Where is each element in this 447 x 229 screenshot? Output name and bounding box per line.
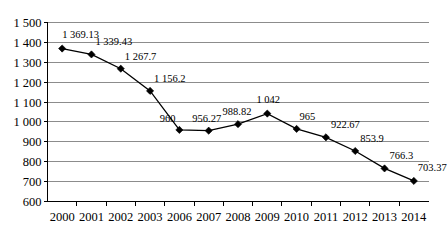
data-point-marker: [264, 110, 271, 117]
data-point-label: 703.37: [418, 162, 447, 173]
x-axis-tick-label: 2008: [226, 210, 251, 224]
data-point-label: 1 156.2: [154, 73, 186, 84]
y-axis-tick-label: 1 500: [13, 16, 41, 30]
data-point-marker: [59, 45, 66, 52]
y-axis-tick-label: 1 400: [13, 36, 41, 50]
data-point-label: 1 339.43: [95, 36, 132, 47]
x-axis-tick-label: 2001: [79, 210, 104, 224]
data-point-label: 853.9: [360, 133, 384, 144]
data-point-marker: [205, 127, 212, 134]
data-point-marker: [410, 177, 417, 184]
data-point-marker: [293, 125, 300, 132]
x-axis-tick-label: 2000: [50, 210, 75, 224]
x-axis-tick-label: 2002: [108, 210, 133, 224]
y-axis-labels-group: 6007008009001 0001 1001 2001 3001 4001 5…: [13, 16, 41, 209]
x-axis-tick-label: 2007: [196, 210, 221, 224]
data-point-label: 1 369.13: [62, 29, 99, 40]
x-axis-tick-label: 2003: [138, 210, 163, 224]
y-axis-tick-label: 1 200: [13, 76, 41, 90]
x-axis-tick-label: 2012: [343, 210, 368, 224]
data-point-label: 1 267.7: [125, 51, 156, 62]
x-axis-tick-label: 2010: [284, 210, 309, 224]
y-axis-tick-label: 600: [23, 195, 42, 209]
data-point-label: 956.27: [192, 113, 221, 124]
y-axis-tick-label: 1 000: [13, 115, 41, 129]
tickmarks-group: [44, 23, 400, 206]
y-axis-tick-label: 900: [23, 135, 42, 149]
x-axis-tick-label: 2014: [401, 210, 427, 224]
y-axis-tick-label: 1 300: [13, 56, 41, 70]
data-point-label: 988.82: [223, 106, 252, 117]
data-point-marker: [381, 165, 388, 172]
x-axis-labels-group: 2000200120022003200620072008200920102011…: [50, 210, 427, 224]
data-point-label: 965: [300, 111, 316, 122]
data-point-label: 960: [160, 113, 176, 124]
y-axis-tick-label: 1 100: [13, 96, 41, 110]
x-axis-tick-label: 2013: [372, 210, 397, 224]
data-point-label: 922.67: [331, 119, 360, 130]
x-axis-tick-label: 2009: [255, 210, 280, 224]
y-axis-tick-label: 800: [23, 155, 42, 169]
data-point-marker: [322, 134, 329, 141]
line-chart: 6007008009001 0001 1001 2001 3001 4001 5…: [0, 0, 447, 229]
data-point-marker: [352, 147, 359, 154]
chart-canvas: 6007008009001 0001 1001 2001 3001 4001 5…: [0, 0, 447, 229]
y-axis-tick-label: 700: [23, 175, 42, 189]
data-point-marker: [88, 51, 95, 58]
data-point-label: 766.3: [390, 150, 414, 161]
data-point-label: 1 042: [256, 94, 280, 105]
x-axis-tick-label: 2011: [314, 210, 339, 224]
point-labels-group: 1 369.131 339.431 267.71 156.2960956.279…: [62, 29, 447, 173]
x-axis-tick-label: 2006: [167, 210, 192, 224]
